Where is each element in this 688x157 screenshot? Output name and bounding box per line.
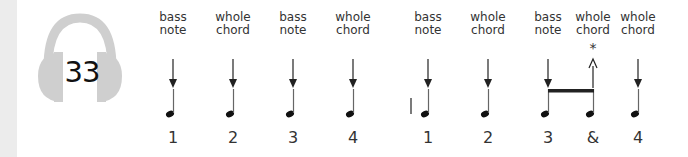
stroke-label-line1: bass (398, 11, 458, 24)
beat-count: 4 (323, 128, 383, 147)
beat-column: bass note 3 (263, 0, 323, 157)
beat-column: whole chord 2 (458, 0, 518, 157)
beat-count: 3 (263, 128, 323, 147)
stroke-label: whole chord (203, 11, 263, 36)
stroke-label-line1: whole (323, 11, 383, 24)
beat-column: whole chord 4 (323, 0, 383, 157)
beat-count: 2 (458, 128, 518, 147)
stroke-label: bass note (143, 11, 203, 36)
stroke-label-line2: chord (203, 24, 263, 37)
stroke-label-line2: chord (323, 24, 383, 37)
stroke-label: bass note (263, 11, 323, 36)
stroke-label-line2: note (398, 24, 458, 37)
stroke-label-line1: whole (203, 11, 263, 24)
annotation-asterisk: * (583, 40, 603, 56)
stroke-label: bass note (398, 11, 458, 36)
beat-column: bass note 1 (143, 0, 203, 157)
stroke-label-line1: bass (263, 11, 323, 24)
stroke-label: whole chord (608, 11, 668, 36)
beat-column: whole chord 4 (608, 0, 668, 157)
beat-count: 1 (398, 128, 458, 147)
beat-count: 4 (608, 128, 668, 147)
beat-count: 2 (203, 128, 263, 147)
stroke-label-line1: whole (458, 11, 518, 24)
beat-column: whole chord 2 (203, 0, 263, 157)
stroke-label-line1: whole (608, 11, 668, 24)
stroke-label-line2: chord (608, 24, 668, 37)
stroke-label-line2: chord (458, 24, 518, 37)
beat-count: 1 (143, 128, 203, 147)
stroke-label: whole chord (323, 11, 383, 36)
beat-column: bass note 1 (398, 0, 458, 157)
stroke-label-line2: note (263, 24, 323, 37)
stroke-label: whole chord (458, 11, 518, 36)
stroke-label-line2: note (143, 24, 203, 37)
stroke-label-line1: bass (143, 11, 203, 24)
